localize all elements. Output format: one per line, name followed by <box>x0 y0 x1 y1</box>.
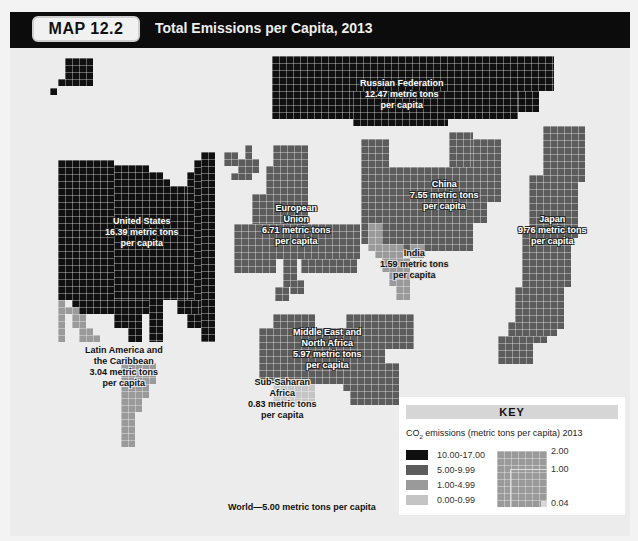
scale-label-2: 2.00 <box>551 446 569 456</box>
label-india: India1.59 metric tonsper capita <box>380 248 449 281</box>
label-ssa: Sub-SaharanAfrica0.83 metric tonsper cap… <box>248 377 317 421</box>
scale-0-04-box <box>541 501 547 507</box>
scale-label-004: 0.04 <box>551 498 569 508</box>
label-us: United States16.39 metric tonsper capita <box>105 216 179 249</box>
legend-item-1-5: 1.00-4.99 <box>406 480 475 490</box>
map-title: Total Emissions per Capita, 2013 <box>155 20 373 36</box>
scale-label-1: 1.00 <box>551 464 569 474</box>
label-russia: Russian Federation12.47 metric tonsper c… <box>360 78 444 111</box>
legend-item-10-17: 10.00-17.00 <box>406 450 485 460</box>
map-number-badge: MAP 12.2 <box>32 16 140 42</box>
swatch-black <box>406 450 428 460</box>
world-average-note: World—5.00 metric tons per capita <box>228 502 376 512</box>
legend-item-5-10: 5.00-9.99 <box>406 465 475 475</box>
label-china: China7.55 metric tonsper capita <box>410 179 479 212</box>
legend-item-0-1: 0.00-0.99 <box>406 495 475 505</box>
label-japan: Japan9.76 metric tonsper capita <box>518 214 587 247</box>
map-header: MAP 12.2 Total Emissions per Capita, 201… <box>10 12 630 48</box>
label-latam: Latin America andthe Caribbean3.04 metri… <box>85 345 163 389</box>
key-subtitle: CO2 emissions (metric tons per capita) 2… <box>406 428 582 440</box>
swatch-mid-gray <box>406 480 428 490</box>
map-key: KEY CO2 emissions (metric tons per capit… <box>399 397 625 515</box>
swatch-light-gray <box>406 495 428 505</box>
label-mena: Middle East andNorth Africa5.97 metric t… <box>293 327 362 371</box>
key-title: KEY <box>406 405 618 419</box>
swatch-dark-gray <box>406 465 428 475</box>
label-eu: EuropeanUnion6.71 metric tonsper capita <box>262 203 331 247</box>
